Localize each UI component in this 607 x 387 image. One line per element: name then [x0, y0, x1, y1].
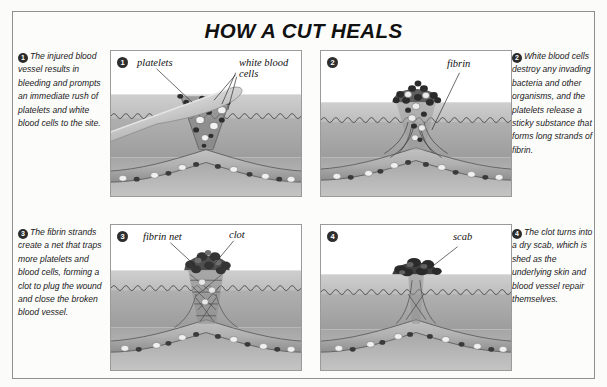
- caption-text-2: White blood cells destroy any invading b…: [512, 51, 592, 155]
- panel-1-label-cells: cells: [239, 68, 258, 80]
- panel-4-label-scab: scab: [453, 231, 472, 243]
- panel-3-illustration: [111, 225, 301, 370]
- panel-2-illustration: [321, 51, 511, 196]
- caption-badge-2: 2: [512, 53, 522, 63]
- panel-badge-2: 2: [327, 57, 338, 68]
- panel-4-illustration: [321, 225, 511, 370]
- caption-badge-4: 4: [512, 229, 522, 239]
- panel-badge-1: 1: [117, 57, 128, 68]
- panel-2: 2 fibrin: [320, 50, 512, 197]
- panel-4: 4 scab: [320, 224, 512, 371]
- panel-1-label-platelets: platelets: [137, 57, 173, 69]
- panel-3: 3 fibrin net clot: [110, 224, 302, 371]
- panel-3-label-clot: clot: [229, 229, 245, 241]
- caption-3: 3The fibrin strands create a net that tr…: [18, 226, 104, 320]
- caption-badge-1: 1: [18, 53, 28, 63]
- caption-text-3: The fibrin strands create a net that tra…: [18, 227, 102, 317]
- panel-3-label-fibrin-net: fibrin net: [143, 231, 182, 243]
- caption-4: 4The clot turns into a dry scab, which i…: [512, 226, 598, 306]
- caption-1: 1The injured blood vessel results in ble…: [18, 50, 104, 130]
- panel-2-label-fibrin: fibrin: [447, 58, 470, 70]
- caption-text-1: The injured blood vessel results in blee…: [18, 51, 101, 128]
- caption-text-4: The clot turns into a dry scab, which is…: [512, 227, 592, 304]
- panel-badge-4: 4: [327, 231, 338, 242]
- panel-badge-3: 3: [117, 231, 128, 242]
- panel-1: 1 platelets white blood cells: [110, 50, 302, 197]
- infographic-figure: HOW A CUT HEALS 1The injured blood vesse…: [0, 0, 607, 387]
- page-title: HOW A CUT HEALS: [0, 19, 607, 43]
- caption-2: 2White blood cells destroy any invading …: [512, 50, 598, 157]
- panel-1-illustration: [111, 51, 301, 196]
- caption-badge-3: 3: [18, 229, 28, 239]
- panel-1-label-white-blood: white blood: [239, 57, 288, 69]
